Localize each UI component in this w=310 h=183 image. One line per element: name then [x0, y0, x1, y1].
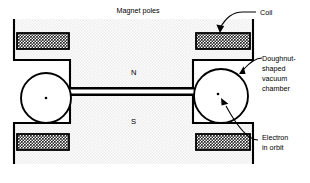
coil-upper-right-block — [196, 33, 250, 49]
coil-label: Coil — [260, 8, 273, 17]
chamber-label-line4: chamber — [262, 84, 291, 93]
chamber-label-line3: vacuum — [262, 74, 287, 83]
magnet-pole-diagram: Magnet poles N S Coil Doughnut- shaped v… — [0, 0, 310, 183]
electron-label-line1: Electron — [262, 133, 288, 142]
coil-upper-left-block — [17, 33, 69, 49]
electron-dot — [217, 93, 220, 96]
vacuum-chamber-right — [194, 69, 248, 123]
right-chamber-circle — [194, 69, 248, 123]
coil-lower-right-block — [196, 134, 250, 150]
coil-upper-right — [196, 33, 250, 49]
chamber-label-line1: Doughnut- — [262, 54, 296, 63]
chamber-label-line2: shaped — [262, 64, 286, 73]
chamber-arrowhead-icon — [239, 66, 246, 74]
vacuum-chamber-left — [21, 73, 71, 123]
pole-label-south: S — [131, 117, 136, 126]
pole-label-north: N — [131, 68, 136, 77]
magnet-poles-title: Magnet poles — [116, 6, 160, 15]
coil-lower-right — [196, 134, 250, 150]
electron-label-line2: in orbit — [262, 143, 284, 152]
left-chamber-center-dot — [45, 97, 48, 100]
diagram-canvas: Magnet poles N S Coil Doughnut- shaped v… — [0, 0, 310, 183]
coil-upper-left — [17, 33, 69, 49]
coil-lower-left — [17, 134, 69, 150]
coil-lower-left-block — [17, 134, 69, 150]
